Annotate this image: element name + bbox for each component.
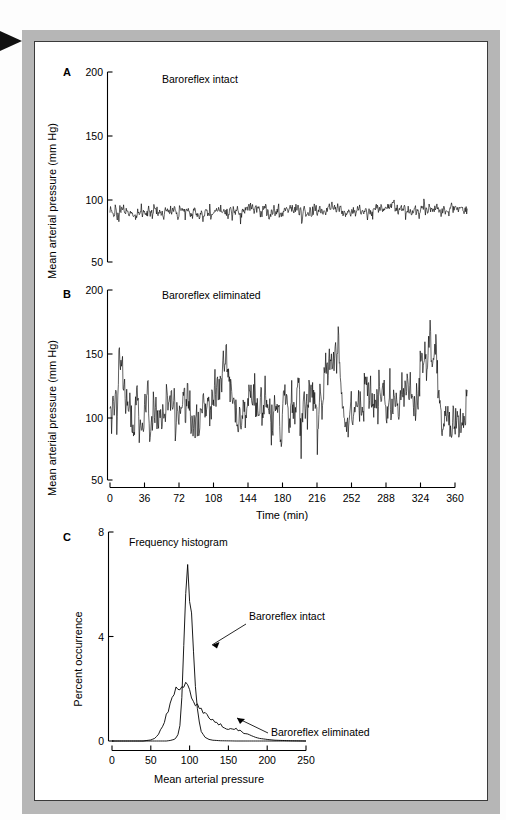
figure-canvas: A Mean arterial pressure (mm Hg) 200 150… xyxy=(34,41,488,801)
panel-c-xtick-label-200: 200 xyxy=(258,754,276,766)
panel-b-x-ticks: 03672108144180216252288324360 xyxy=(107,483,464,504)
panel-b-letter: B xyxy=(63,288,71,300)
panel-a-ytick-50: 50 xyxy=(91,256,103,268)
panel-c-ytick-4: 4 xyxy=(98,631,104,643)
panel-c-letter: C xyxy=(63,531,71,543)
panel-b-ytick-200: 200 xyxy=(85,284,103,296)
panel-c-ytick-0: 0 xyxy=(98,735,104,747)
panel-b-y-axis-title: Mean arterial pressure (mm Hg) xyxy=(46,340,58,496)
figure-page: A Mean arterial pressure (mm Hg) 200 150… xyxy=(0,0,506,820)
panel-b-xtick-label-288: 288 xyxy=(377,492,395,504)
panel-a-y-axis-title: Mean arterial pressure (mm Hg) xyxy=(46,123,58,279)
triangle-right-icon xyxy=(0,31,22,51)
panel-c-label-intact: Baroreflex intact xyxy=(249,610,325,622)
panel-b-xtick-label-108: 108 xyxy=(205,492,223,504)
panel-b-xtick-label-360: 360 xyxy=(446,492,464,504)
panel-a-letter: A xyxy=(63,66,71,78)
panel-b-x-axis-title: Time (min) xyxy=(256,509,308,521)
panel-b-xtick-label-0: 0 xyxy=(107,492,113,504)
panel-b-xtick-label-72: 72 xyxy=(173,492,185,504)
panel-b-ytick-150: 150 xyxy=(85,348,103,360)
panel-c-x-axis-title: Mean arterial pressure xyxy=(154,773,264,785)
panel-c-leader-intact xyxy=(212,624,246,645)
panel-b-trace xyxy=(110,320,467,459)
panel-c-ytick-8: 8 xyxy=(98,526,104,538)
panel-b-y-ticks: 200 150 100 50 xyxy=(85,284,112,486)
panel-b-xtick-label-252: 252 xyxy=(343,492,361,504)
panel-a-y-ticks: 200 150 100 50 xyxy=(85,66,112,268)
panel-c-y-axis-title: Percent occurrence xyxy=(72,611,84,706)
panel-c-x-ticks: 050100150200250 xyxy=(109,746,315,767)
panel-a: A Mean arterial pressure (mm Hg) 200 150… xyxy=(46,66,467,279)
panel-c-annotation: Frequency histogram xyxy=(129,536,228,548)
panel-b-ytick-50: 50 xyxy=(91,474,103,486)
panel-b-ytick-100: 100 xyxy=(85,412,103,424)
panel-c-curve-intact xyxy=(112,565,306,742)
panel-a-ytick-200: 200 xyxy=(85,66,103,78)
panel-c-y-ticks: 8 4 0 xyxy=(98,526,113,747)
panel-b-xtick-label-144: 144 xyxy=(239,492,257,504)
panel-b-xtick-label-36: 36 xyxy=(139,492,151,504)
panel-c-xtick-label-50: 50 xyxy=(145,754,157,766)
panel-b: B Mean arterial pressure (mm Hg) 200 150… xyxy=(46,284,467,521)
panel-b-xtick-label-216: 216 xyxy=(308,492,326,504)
panel-b-annotation: Baroreflex eliminated xyxy=(162,289,261,301)
panel-c-xtick-label-100: 100 xyxy=(181,754,199,766)
figure-svg: A Mean arterial pressure (mm Hg) 200 150… xyxy=(34,41,488,801)
panel-c-xtick-label-150: 150 xyxy=(220,754,238,766)
panel-a-annotation: Baroreflex intact xyxy=(162,73,238,85)
panel-b-xtick-label-324: 324 xyxy=(412,492,430,504)
panel-c: C Percent occurrence 8 4 0 Frequency his… xyxy=(63,526,370,785)
panel-a-ytick-150: 150 xyxy=(85,130,103,142)
panel-a-trace xyxy=(110,199,467,224)
panel-b-xtick-label-180: 180 xyxy=(274,492,292,504)
panel-a-ytick-100: 100 xyxy=(85,194,103,206)
panel-c-xtick-label-0: 0 xyxy=(109,754,115,766)
panel-c-xtick-label-250: 250 xyxy=(297,754,315,766)
panel-c-label-eliminated: Baroreflex eliminated xyxy=(271,726,370,738)
